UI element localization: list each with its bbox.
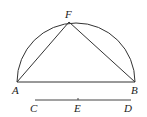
semicircle-arc (17, 23, 135, 82)
label-b: B (131, 84, 138, 96)
segment-fb (69, 22, 135, 82)
label-d: D (123, 102, 132, 114)
diagram-svg: F A B C E D (0, 0, 147, 117)
label-c: C (30, 102, 38, 114)
label-a: A (11, 84, 19, 96)
label-f: F (64, 8, 72, 20)
label-e: E (73, 102, 81, 114)
geometry-diagram: F A B C E D (0, 0, 147, 117)
